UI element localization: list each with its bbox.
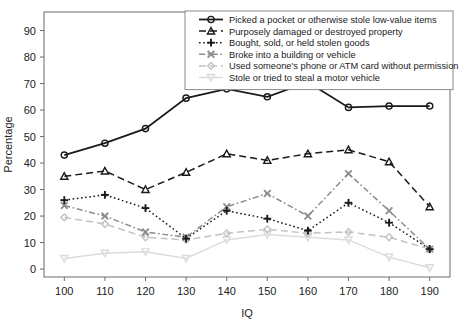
legend-item-1[interactable]: Purposely damaged or destroyed property xyxy=(199,27,403,37)
y-tick-label: 30 xyxy=(24,184,36,196)
legend-label: Picked a pocket or otherwise stole low-v… xyxy=(229,15,437,25)
data-point-marker xyxy=(386,158,393,165)
y-tick-label: 10 xyxy=(24,237,36,249)
legend-item-0[interactable]: Picked a pocket or otherwise stole low-v… xyxy=(199,15,437,25)
legend-label: Broke into a building or vehicle xyxy=(229,50,356,60)
chart-container: 0102030405060708090 10011012013014015016… xyxy=(0,0,460,333)
legend-label: Used someone's phone or ATM card without… xyxy=(229,61,459,71)
series-5 xyxy=(61,232,434,272)
data-point-marker xyxy=(142,204,150,212)
x-tick-label: 100 xyxy=(55,285,73,297)
data-point-marker xyxy=(345,199,353,207)
x-tick-label: 170 xyxy=(339,285,357,297)
y-axis-title: Percentage xyxy=(2,116,14,172)
data-point-marker xyxy=(101,167,108,174)
x-axis-title: IQ xyxy=(241,307,253,319)
series-line xyxy=(64,82,429,155)
series-layer xyxy=(60,79,433,271)
series-2 xyxy=(60,191,433,253)
x-tick-label: 110 xyxy=(96,285,114,297)
y-tick-label: 70 xyxy=(24,78,36,90)
chart-legend: Picked a pocket or otherwise stole low-v… xyxy=(185,11,459,90)
x-tick-label: 120 xyxy=(136,285,154,297)
series-4 xyxy=(61,214,433,253)
y-tick-label: 60 xyxy=(24,104,36,116)
y-tick-label: 0 xyxy=(30,263,36,275)
data-point-marker xyxy=(61,255,68,262)
y-tick-label: 40 xyxy=(24,157,36,169)
series-line xyxy=(64,217,429,249)
x-axis-ticks: 100110120130140150160170180190 xyxy=(55,277,439,297)
x-tick-label: 130 xyxy=(177,285,195,297)
data-point-marker xyxy=(426,265,433,272)
series-line xyxy=(64,195,429,249)
series-line xyxy=(64,235,429,268)
y-axis-ticks: 0102030405060708090 xyxy=(24,25,44,275)
x-tick-label: 180 xyxy=(380,285,398,297)
data-point-marker xyxy=(385,219,393,227)
y-tick-label: 20 xyxy=(24,210,36,222)
series-0 xyxy=(61,79,433,158)
x-tick-label: 190 xyxy=(421,285,439,297)
x-tick-label: 140 xyxy=(218,285,236,297)
data-point-marker xyxy=(305,213,312,220)
data-point-marker xyxy=(223,150,230,157)
y-tick-label: 80 xyxy=(24,51,36,63)
x-tick-label: 150 xyxy=(258,285,276,297)
line-chart: 0102030405060708090 10011012013014015016… xyxy=(0,0,460,333)
data-point-marker xyxy=(223,207,231,215)
y-tick-label: 90 xyxy=(24,25,36,37)
legend-label: Bought, sold, or held stolen goods xyxy=(229,38,370,48)
series-3 xyxy=(61,170,433,252)
data-point-marker xyxy=(263,215,271,223)
legend-label: Purposely damaged or destroyed property xyxy=(229,27,403,37)
legend-item-4[interactable]: Used someone's phone or ATM card without… xyxy=(199,61,459,71)
x-tick-label: 160 xyxy=(299,285,317,297)
legend-label: Stole or tried to steal a motor vehicle xyxy=(229,73,380,83)
data-point-marker xyxy=(101,191,109,199)
data-point-marker xyxy=(183,169,190,176)
data-point-marker xyxy=(345,170,352,177)
data-point-marker xyxy=(142,186,149,193)
data-point-marker xyxy=(386,207,393,214)
y-tick-label: 50 xyxy=(24,131,36,143)
